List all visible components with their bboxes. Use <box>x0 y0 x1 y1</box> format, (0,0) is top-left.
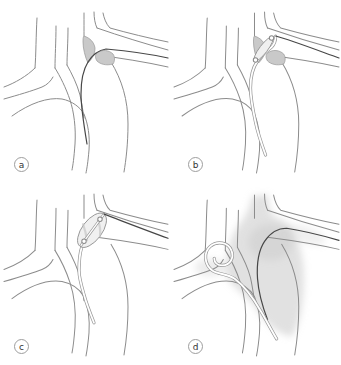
guidewire <box>81 49 168 144</box>
coarctation-shelf <box>83 36 115 65</box>
coarctation-angioplasty-figure: a b c d <box>0 0 341 365</box>
panel-c-illustration <box>0 182 170 365</box>
aortic-arch-vessels <box>174 12 339 173</box>
panel-c-label: c <box>14 339 29 354</box>
balloon-catheter <box>72 208 112 323</box>
panel-d-label: d <box>188 339 203 354</box>
aortic-arch-vessels <box>4 194 168 356</box>
panel-d-illustration <box>170 182 341 365</box>
panel-a-illustration <box>0 0 170 182</box>
panel-b-illustration <box>170 0 341 182</box>
contrast-bolus <box>195 195 327 337</box>
aortic-arch-vessels <box>4 12 168 173</box>
panel-b-label: b <box>188 157 203 172</box>
guidewire <box>104 214 168 238</box>
panel-a-label: a <box>14 157 29 172</box>
